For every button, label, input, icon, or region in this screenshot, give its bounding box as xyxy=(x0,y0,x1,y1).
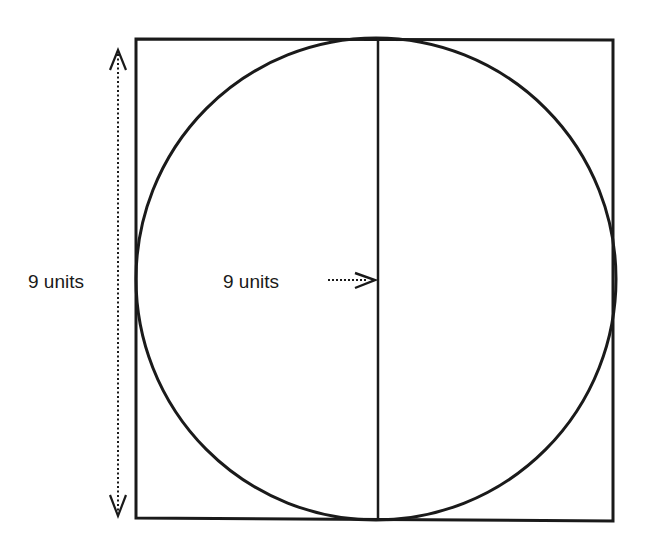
height-arrow xyxy=(110,50,126,516)
height-label: 9 units xyxy=(28,272,84,291)
diameter-pointer-arrow xyxy=(328,273,375,288)
inscribed-circle xyxy=(136,38,616,520)
diameter-label: 9 units xyxy=(223,272,279,291)
circle-in-square-diagram xyxy=(0,0,645,558)
